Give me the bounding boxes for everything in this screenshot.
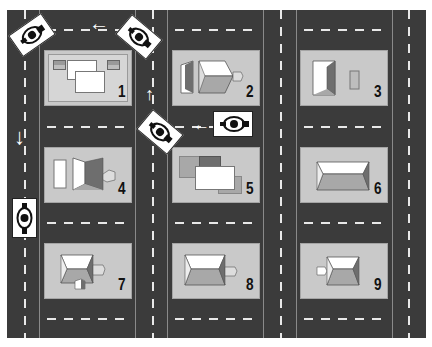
lane-divider-horizontal <box>47 318 129 320</box>
curb-line <box>39 10 40 338</box>
lane-divider-horizontal <box>304 318 386 320</box>
arrow-down-icon: ↓ <box>14 124 25 150</box>
lane-divider-horizontal <box>175 29 257 31</box>
hip-roof-house <box>179 59 255 97</box>
lane-divider-vertical <box>24 10 26 338</box>
arrow-left-icon: ← <box>89 12 109 35</box>
hip-roof-house <box>307 249 383 293</box>
shed-roof <box>53 60 66 70</box>
hip-roof-house <box>51 154 127 196</box>
lane-divider-horizontal <box>304 29 386 31</box>
block-2[interactable]: 2 <box>172 50 260 106</box>
motorcycle-icon <box>13 199 36 237</box>
hip-roof-house <box>51 249 127 293</box>
lane-divider-horizontal <box>175 318 257 320</box>
lane-divider-vertical <box>152 10 154 338</box>
lane-divider-horizontal <box>304 222 386 224</box>
block-8[interactable]: 8 <box>172 243 260 299</box>
flat-roof <box>75 71 105 93</box>
flat-roof <box>195 166 235 190</box>
lane-divider-horizontal <box>47 126 129 128</box>
block-number: 2 <box>245 82 253 102</box>
street-map: 1 2 3 4 <box>7 10 426 338</box>
lane-divider-vertical <box>408 10 410 338</box>
block-5[interactable]: 5 <box>172 147 260 203</box>
block-7[interactable]: 7 <box>44 243 132 299</box>
arrow-left-icon: ← <box>193 115 210 135</box>
curb-line <box>167 10 168 338</box>
block-number: 1 <box>117 82 125 102</box>
block-number: 6 <box>373 179 381 199</box>
block-number: 3 <box>373 82 381 102</box>
hip-roof-house <box>307 154 383 196</box>
block-1[interactable]: 1 <box>44 50 132 106</box>
curb-line <box>296 10 297 338</box>
block-number: 8 <box>245 275 253 295</box>
lane-divider-horizontal <box>175 222 257 224</box>
lane-divider-horizontal <box>47 222 129 224</box>
curb-line <box>392 10 393 338</box>
lane-divider-vertical <box>280 10 282 338</box>
curb-line <box>263 10 264 338</box>
motorcycle-icon <box>214 112 252 136</box>
block-number: 9 <box>373 275 381 295</box>
block-6[interactable]: 6 <box>300 147 388 203</box>
block-number: 7 <box>117 275 125 295</box>
block-number: 4 <box>117 179 125 199</box>
block-9[interactable]: 9 <box>300 243 388 299</box>
lane-divider-horizontal <box>304 126 386 128</box>
block-number: 5 <box>245 179 253 199</box>
hip-roof-house <box>307 57 383 99</box>
shed-roof <box>107 60 120 70</box>
motorcycle-marker[interactable] <box>12 198 37 238</box>
motorcycle-marker[interactable] <box>213 111 253 137</box>
curb-line <box>135 10 136 338</box>
block-4[interactable]: 4 <box>44 147 132 203</box>
arrow-up-icon: ↑ <box>145 84 154 105</box>
hip-roof-house <box>179 249 255 293</box>
block-3[interactable]: 3 <box>300 50 388 106</box>
